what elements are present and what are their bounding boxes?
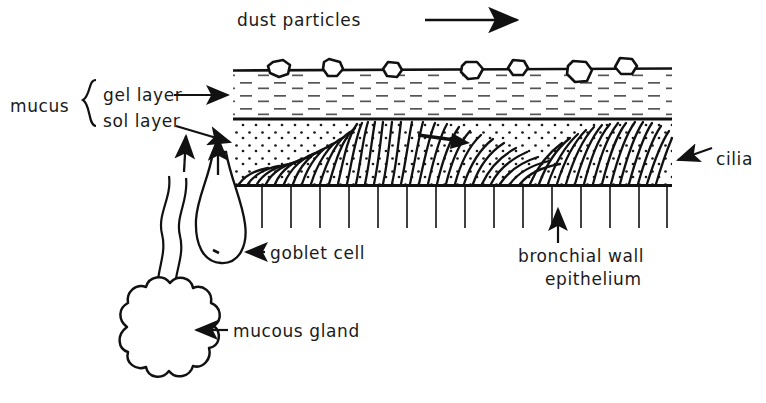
epithelium-cell-lines bbox=[262, 186, 667, 228]
dust-particles-label: dust particles bbox=[237, 10, 361, 30]
mucous-gland bbox=[120, 277, 220, 376]
mucus-brace bbox=[83, 80, 96, 126]
gel-layer-fill bbox=[233, 71, 672, 119]
dust-particle bbox=[508, 60, 528, 75]
diagram-canvas: dust particles bbox=[0, 0, 766, 403]
gel-layer-region bbox=[233, 69, 672, 120]
mucus-label: mucus bbox=[10, 96, 69, 116]
cilia-label: cilia bbox=[716, 149, 753, 169]
sol-layer-label: sol layer bbox=[103, 111, 180, 131]
dust-particle bbox=[615, 58, 637, 74]
dust-particle bbox=[268, 60, 290, 77]
mucus-surface-line bbox=[233, 69, 672, 71]
gel-layer-label: gel layer bbox=[103, 85, 182, 105]
sol-layer-region bbox=[233, 121, 672, 185]
mucous-gland-outline bbox=[120, 277, 220, 376]
goblet-cell-label: goblet cell bbox=[270, 243, 365, 263]
dust-particle bbox=[461, 62, 483, 79]
mucous-gland-label: mucous gland bbox=[233, 321, 360, 341]
bronchial-wall-label-line2: epithelium bbox=[545, 269, 642, 289]
dust-particle bbox=[323, 59, 343, 76]
dust-particle bbox=[567, 61, 592, 82]
sol-layer-leader bbox=[176, 126, 230, 142]
bronchial-mucociliary-diagram: dust particles bbox=[0, 0, 766, 403]
dust-particle bbox=[383, 62, 402, 77]
bronchial-wall-label-line1: bronchial wall bbox=[518, 246, 644, 266]
cilia-leader bbox=[678, 148, 712, 160]
